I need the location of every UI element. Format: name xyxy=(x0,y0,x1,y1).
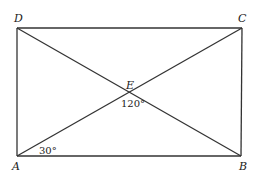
label-a: A xyxy=(11,160,20,173)
label-c: C xyxy=(238,12,247,25)
label-b: B xyxy=(238,160,247,173)
label-d: D xyxy=(13,12,23,25)
diagram-canvas: D C A B E 30° 120° xyxy=(0,0,260,192)
angle-e-label: 120° xyxy=(121,98,145,109)
label-e: E xyxy=(125,79,134,92)
geometry-diagram: D C A B E 30° 120° xyxy=(0,0,260,192)
side-bc xyxy=(241,28,242,156)
angle-a-label: 30° xyxy=(39,145,57,156)
